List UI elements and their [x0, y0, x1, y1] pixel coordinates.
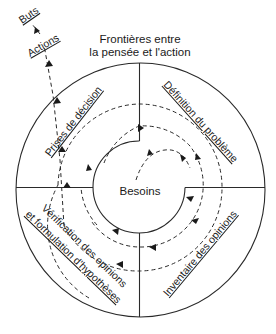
arrow-icon [112, 228, 119, 235]
quadrant-label-decision: Prises de décision [42, 84, 104, 159]
quadrant-label-verification-line1: Vérification des opinions [40, 202, 130, 290]
quadrant-label-problem: Définition du problème [162, 78, 241, 164]
arrow-icon [149, 244, 156, 251]
label-actions: Actions [25, 31, 61, 59]
cycle-diagram: Frontières entre la pensée et l'action B… [0, 0, 276, 334]
dashed-path-inner-tail [81, 187, 97, 225]
arrow-icon [63, 182, 71, 188]
arrow-icon [138, 124, 144, 132]
arrow-icon [45, 60, 53, 67]
quadrant-label-inventory: Inventaire des opinions [160, 208, 239, 298]
arrow-icon [195, 153, 201, 160]
arrow-icon [191, 218, 199, 224]
arrow-icon [180, 154, 186, 162]
center-label-needs: Besoins [120, 185, 161, 197]
header-line-2: la pensée et l'action [89, 46, 190, 58]
arrow-icon [186, 196, 194, 202]
dashed-path-from-needs [136, 150, 190, 180]
arrow-icon [86, 164, 92, 171]
label-goals: Buts [16, 4, 40, 26]
header-line-1: Frontières entre [99, 33, 180, 45]
arrow-icon [116, 261, 123, 268]
